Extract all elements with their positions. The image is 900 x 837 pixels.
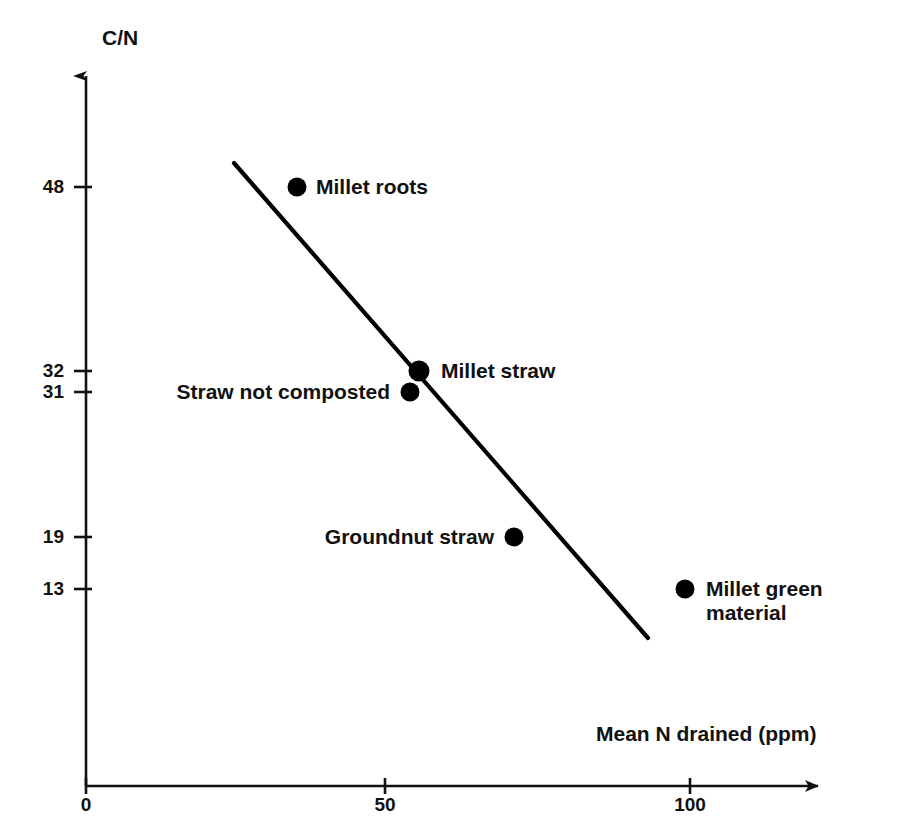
marker-millet-green-material [676, 580, 695, 599]
y-axis-title: C/N [102, 26, 138, 50]
point-label-millet-roots: Millet roots [316, 175, 428, 199]
point-label-millet-green-material: Millet green material [706, 577, 823, 624]
chart-figure: C/N Mean N drained (ppm) 48 32 31 19 13 … [0, 0, 900, 837]
x-tick-label-50: 50 [355, 794, 415, 815]
x-tick-label-100: 100 [660, 794, 720, 815]
y-tick-label-19: 19 [8, 526, 64, 547]
marker-millet-roots [288, 178, 307, 197]
y-tick-label-31: 31 [8, 381, 64, 402]
y-tick-label-32: 32 [8, 360, 64, 381]
y-tick-label-48: 48 [8, 176, 64, 197]
x-axis-title: Mean N drained (ppm) [596, 722, 817, 746]
point-label-millet-green-line2: material [706, 601, 823, 625]
chart-canvas [0, 0, 900, 837]
point-label-straw-not-composted: Straw not composted [170, 380, 390, 404]
y-tick-label-13: 13 [8, 578, 64, 599]
point-label-millet-green-line1: Millet green [706, 577, 823, 601]
y-axis-ticks [74, 187, 92, 589]
point-label-groundnut-straw: Groundnut straw [310, 525, 494, 549]
x-tick-label-0: 0 [56, 794, 116, 815]
marker-straw-not-composted [401, 383, 420, 402]
marker-millet-straw [409, 361, 430, 382]
point-label-millet-straw: Millet straw [441, 359, 555, 383]
marker-groundnut-straw [505, 528, 524, 547]
